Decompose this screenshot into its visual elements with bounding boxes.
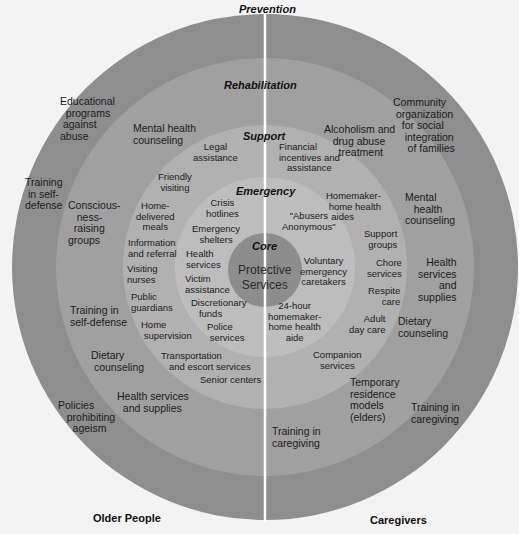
label-voluntary-caretakers: Voluntary emergency caretakers <box>300 256 347 288</box>
label-visiting-nurses: Visiting nurses <box>127 264 157 285</box>
label-public-guardians: Public guardians <box>131 292 173 313</box>
label-training-self-defense-outer: Training in self- defense <box>25 177 63 212</box>
label-crisis-hotlines: Crisis hotlines <box>206 198 239 219</box>
label-home-delivered-meals: Home- delivered meals <box>136 201 175 233</box>
side-label-caregivers: Caregivers <box>370 514 427 526</box>
label-dietary-counseling-right: Dietary counseling <box>398 316 448 339</box>
label-health-services-right: Health services and supplies <box>418 257 457 303</box>
ring-title-prevention: Prevention <box>239 3 296 15</box>
label-mental-health-left: Mental health counseling <box>133 123 196 146</box>
label-emergency-shelters: Emergency shelters <box>192 224 240 245</box>
label-training-self-defense-inner: Training in self-defense <box>70 305 127 328</box>
label-24-hour-homemaker: 24-hour homemaker- home health aide <box>268 301 321 343</box>
label-adult-day-care: Adult day care <box>349 314 385 335</box>
side-label-older-people: Older People <box>93 512 161 524</box>
label-health-services-emergency: Health services <box>186 249 221 270</box>
label-educational-programs: Educational programs against abuse <box>60 96 115 142</box>
label-dietary-counseling-left: Dietary counseling <box>91 350 144 373</box>
label-community-organization: Community organization for social integr… <box>393 97 455 155</box>
label-companion-services: Companion services <box>313 350 362 371</box>
label-mental-health-right: Mental health counseling <box>405 192 455 227</box>
label-training-caregiving-inner: Training in caregiving <box>272 426 321 449</box>
label-victim-assistance: Victim assistance <box>185 274 230 295</box>
label-transportation-escort: Transportation and escort services <box>161 351 251 372</box>
ring-title-core: Core <box>252 240 277 252</box>
ring-title-rehabilitation: Rehabilitation <box>224 79 297 91</box>
ring-title-emergency: Emergency <box>236 185 295 197</box>
label-friendly-visiting: Friendly visiting <box>158 172 192 193</box>
label-legal-assistance: Legal assistance <box>193 142 238 163</box>
label-consciousness-raising: Conscious- ness- raising groups <box>68 200 121 246</box>
core-protective-services: Protective Services <box>238 263 291 293</box>
label-training-caregiving-outer: Training in caregiving <box>411 402 460 425</box>
label-chore-services: Chore services <box>367 258 402 279</box>
label-financial-incentives: Financial incentives and assistance <box>279 142 340 174</box>
label-senior-centers: Senior centers <box>200 375 261 386</box>
label-abusers-anonymous: "Abusers Anonymous" <box>282 211 336 232</box>
label-information-referral: Information and referral <box>128 238 177 259</box>
label-health-services-left: Health services and supplies <box>117 391 189 414</box>
label-home-supervision: Home supervision <box>141 320 192 341</box>
label-support-groups: Support groups <box>364 229 397 250</box>
label-temporary-residence: Temporary residence models (elders) <box>350 377 400 423</box>
label-discretionary-funds: Discretionary funds <box>191 298 246 319</box>
label-policies-ageism: Policies prohibiting ageism <box>58 400 115 435</box>
label-respite-care: Respite care <box>368 286 400 307</box>
label-police-services: Police services <box>207 322 244 343</box>
